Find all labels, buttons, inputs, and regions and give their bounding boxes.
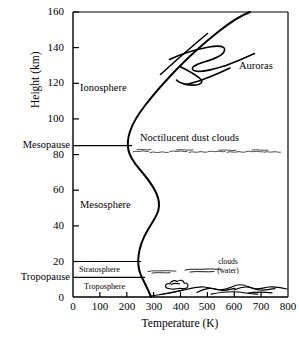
- y-tick-label-0: 0: [38, 292, 64, 303]
- x-tick-label-100: 100: [86, 301, 114, 312]
- x-tick-label-300: 300: [140, 301, 168, 312]
- y-axis-ticks: [73, 12, 79, 262]
- x-tick-label-400: 400: [167, 301, 195, 312]
- boundary-label-mesopause: Mesopause: [2, 140, 70, 151]
- feature-label-auroras: Auroras: [239, 61, 273, 72]
- layer-label-troposphere: Troposphere: [84, 283, 125, 291]
- noctilucent-cloud-layer: [133, 149, 281, 152]
- layer-label-stratosphere: Stratosphere: [79, 266, 120, 274]
- feature-label-clouds-water-line2: (water): [211, 267, 245, 275]
- high-cloud-streak: [148, 271, 176, 273]
- cumulus-cloud: [166, 280, 188, 289]
- temperature-profile-curve: [128, 12, 250, 297]
- x-tick-label-600: 600: [220, 301, 248, 312]
- feature-label-clouds-water-line1: clouds: [211, 258, 245, 266]
- atmosphere-temperature-profile-figure: 160 140 120 100 80 60 40 20 0 0 100 200 …: [0, 0, 299, 338]
- x-axis-ticks: [100, 292, 261, 297]
- x-axis-title: Temperature (K): [110, 318, 250, 330]
- y-axis-title: Height (km): [30, 51, 42, 108]
- y-tick-label-20: 20: [38, 256, 64, 267]
- boundary-label-tropopause: Tropopause: [2, 272, 70, 283]
- y-tick-label-140: 140: [38, 42, 64, 53]
- layer-label-ionosphere: Ionosphere: [80, 83, 127, 94]
- x-tick-label-700: 700: [247, 301, 275, 312]
- y-tick-label-80: 80: [38, 149, 64, 160]
- y-tick-label-60: 60: [38, 184, 64, 195]
- y-tick-label-160: 160: [38, 6, 64, 17]
- layer-label-mesosphere: Mesosphere: [80, 200, 131, 211]
- x-tick-label-800: 800: [274, 301, 299, 312]
- feature-label-noctilucent-dust-clouds: Noctilucent dust clouds: [140, 133, 239, 144]
- y-tick-label-100: 100: [38, 113, 64, 124]
- x-tick-label-0: 0: [63, 301, 83, 312]
- x-tick-label-500: 500: [193, 301, 221, 312]
- ground-terrain: [150, 285, 287, 296]
- y-tick-label-120: 120: [38, 77, 64, 88]
- y-tick-label-40: 40: [38, 220, 64, 231]
- x-tick-label-200: 200: [113, 301, 141, 312]
